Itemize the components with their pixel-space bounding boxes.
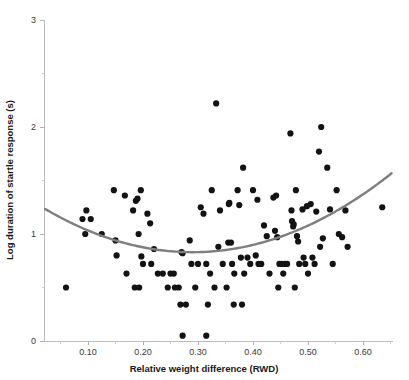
scatter-plot-figure: 0.100.200.300.400.500.60 0123 Relative w… — [0, 0, 409, 380]
data-point — [198, 204, 204, 210]
data-point — [215, 244, 221, 250]
data-point — [287, 130, 293, 136]
data-point — [339, 234, 345, 240]
data-point — [334, 187, 340, 193]
data-point — [138, 187, 144, 193]
y-tick-label-1: 1 — [31, 229, 36, 239]
data-point — [316, 149, 322, 155]
data-point — [293, 187, 299, 193]
axes-group — [44, 20, 393, 341]
data-point — [209, 187, 215, 193]
data-point — [114, 252, 120, 258]
data-point — [272, 228, 278, 234]
x-tick-label-3: 0.40 — [244, 347, 262, 357]
data-point — [295, 238, 301, 244]
data-point — [177, 302, 183, 308]
data-point — [236, 202, 242, 208]
data-point — [205, 302, 211, 308]
data-point — [144, 211, 150, 217]
data-point — [171, 270, 177, 276]
data-point — [273, 192, 279, 198]
x-tick-label-5: 0.60 — [354, 347, 372, 357]
data-point — [291, 221, 297, 227]
data-point — [140, 261, 146, 267]
y-axis-ticks — [40, 20, 44, 341]
data-point — [261, 222, 267, 228]
data-point — [317, 244, 323, 250]
data-point — [203, 333, 209, 339]
data-point — [82, 231, 88, 237]
y-axis-tick-labels: 0123 — [31, 15, 36, 346]
data-point — [111, 187, 117, 193]
data-point — [136, 231, 142, 237]
data-point — [200, 211, 206, 217]
data-point — [148, 261, 154, 267]
data-point — [327, 206, 333, 212]
data-point — [165, 284, 171, 290]
data-point — [130, 207, 136, 213]
data-point — [275, 284, 281, 290]
data-point — [228, 239, 234, 245]
data-point — [284, 261, 290, 267]
y-tick-label-3: 3 — [31, 15, 36, 25]
data-point — [134, 196, 140, 202]
data-point — [318, 124, 324, 130]
y-tick-label-0: 0 — [31, 336, 36, 346]
data-point — [238, 254, 244, 260]
data-point — [264, 233, 270, 239]
x-axis-tick-labels: 0.100.200.300.400.500.60 — [79, 347, 372, 357]
data-point — [292, 284, 298, 290]
x-axis-ticks — [61, 341, 391, 345]
data-point — [345, 244, 351, 250]
data-point — [226, 200, 232, 206]
data-point — [301, 254, 307, 260]
y-axis-title: Log duration of startle response (s) — [4, 100, 15, 260]
data-point — [330, 261, 336, 267]
data-point — [241, 270, 247, 276]
data-point — [195, 261, 201, 267]
data-point — [239, 302, 245, 308]
data-point — [294, 233, 300, 239]
data-point — [240, 165, 246, 171]
data-point — [231, 302, 237, 308]
x-tick-label-0: 0.10 — [79, 347, 97, 357]
x-axis-title: Relative weight difference (RWD) — [130, 363, 279, 374]
data-point — [235, 187, 241, 193]
data-point — [88, 216, 94, 222]
data-point — [250, 187, 256, 193]
data-point — [312, 261, 318, 267]
data-point — [79, 216, 85, 222]
data-point — [211, 284, 217, 290]
data-point — [309, 254, 315, 260]
data-point — [244, 254, 250, 260]
data-point — [379, 204, 385, 210]
data-point — [320, 235, 326, 241]
data-point — [147, 220, 153, 226]
data-point — [203, 261, 209, 267]
data-point — [308, 201, 314, 207]
data-point — [63, 284, 69, 290]
data-point — [183, 302, 189, 308]
data-point — [83, 207, 89, 213]
y-tick-label-2: 2 — [31, 122, 36, 132]
data-point — [220, 261, 226, 267]
data-point — [305, 270, 311, 276]
data-point — [302, 261, 308, 267]
data-point — [266, 270, 272, 276]
data-points-group — [63, 100, 385, 338]
data-point — [188, 261, 194, 267]
data-point — [247, 261, 253, 267]
data-point — [258, 261, 264, 267]
data-point — [207, 270, 213, 276]
data-point — [313, 208, 319, 214]
data-point — [123, 270, 129, 276]
data-point — [229, 261, 235, 267]
data-point — [213, 100, 219, 106]
data-point — [231, 270, 237, 276]
data-point — [176, 284, 182, 290]
data-point — [122, 192, 128, 198]
data-point — [288, 207, 294, 213]
data-point — [180, 333, 186, 339]
data-point — [136, 284, 142, 290]
data-point — [160, 270, 166, 276]
